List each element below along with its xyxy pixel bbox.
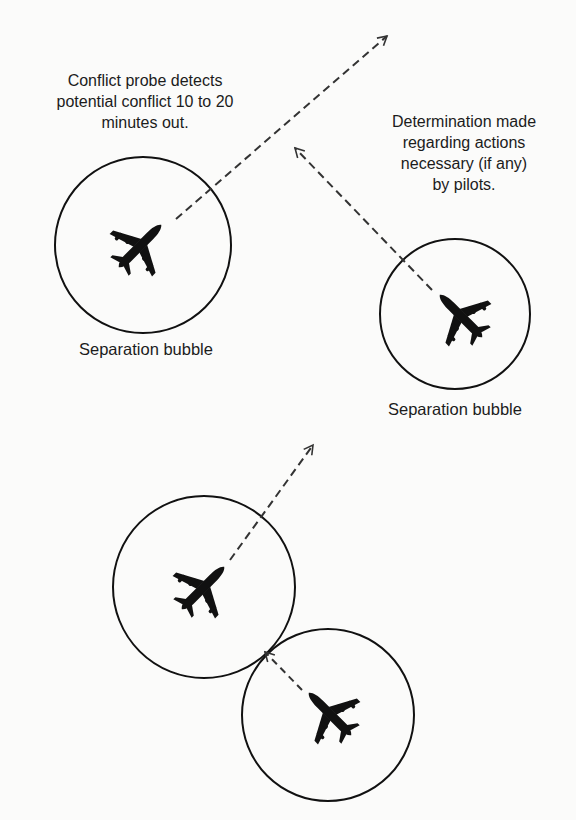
separation-bubble-label-left: Separation bubble <box>46 339 246 359</box>
airplane-icon <box>161 546 246 631</box>
airplane-icon <box>98 204 183 289</box>
conflict-probe-caption: Conflict probe detects potential conflic… <box>30 70 260 133</box>
separation-bubble-label-right: Separation bubble <box>355 399 555 419</box>
airplane-icon <box>288 672 373 757</box>
trajectory-arrow-3 <box>230 445 313 560</box>
trajectory-arrow-4 <box>265 652 302 690</box>
determination-caption: Determination made regarding actions nec… <box>364 111 564 195</box>
airplane-icon <box>419 274 504 359</box>
